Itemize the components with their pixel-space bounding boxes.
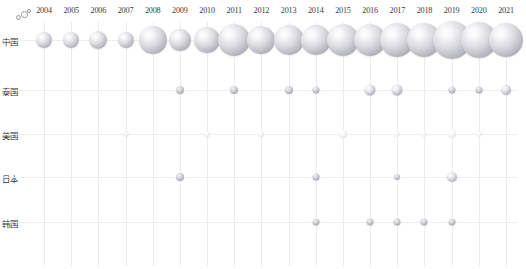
bubble-中国-2011[interactable]: [218, 24, 250, 56]
gridline-2013: [289, 22, 290, 266]
plot-area: [36, 22, 522, 266]
gridline-2004: [44, 22, 45, 266]
bubble-中国-2013[interactable]: [274, 25, 304, 55]
gridline-2021: [506, 22, 507, 266]
bubble-美国-2015[interactable]: [339, 130, 347, 138]
bubble-中国-2004[interactable]: [36, 32, 52, 48]
gridline-2008: [153, 22, 154, 266]
y-axis-label-4: 韩国: [2, 217, 34, 229]
bubble-美国-2019[interactable]: [448, 130, 456, 138]
bubble-泰国-2016[interactable]: [365, 85, 376, 96]
gridline-2007: [126, 22, 127, 266]
bubble-日本-2019[interactable]: [447, 172, 457, 182]
bubble-美国-2010[interactable]: [204, 131, 210, 137]
bubble-中国-2021[interactable]: [489, 23, 523, 57]
bubble-韩国-2014[interactable]: [312, 219, 319, 226]
bubble-泰国-2021[interactable]: [501, 85, 511, 95]
bubble-韩国-2018[interactable]: [421, 219, 428, 226]
bubble-日本-2009[interactable]: [176, 173, 184, 181]
gridline-2009: [180, 22, 181, 266]
bubble-泰国-2013[interactable]: [285, 86, 293, 94]
bubble-美国-2020[interactable]: [476, 132, 481, 137]
gridline-2011: [234, 22, 235, 266]
bubble-chart: 2004200520062007200820092010201120122013…: [0, 0, 526, 269]
gridline-2017: [397, 22, 398, 266]
bubble-中国-2008[interactable]: [139, 26, 167, 54]
gridline-2018: [424, 22, 425, 266]
gridline-2014: [316, 22, 317, 266]
bubble-美国-2017[interactable]: [395, 132, 400, 137]
bubble-美国-2007[interactable]: [123, 132, 128, 137]
bubble-中国-2009[interactable]: [169, 29, 191, 51]
x-axis-label-2021: 2021: [489, 6, 523, 15]
bubble-美国-2012[interactable]: [258, 131, 264, 137]
bubble-泰国-2009[interactable]: [176, 86, 184, 94]
y-axis-label-3: 日本: [2, 172, 34, 184]
bubble-日本-2014[interactable]: [312, 174, 319, 181]
y-axis-label-0: 中国: [2, 35, 34, 47]
bubble-中国-2010[interactable]: [194, 27, 220, 53]
row-line-3: [2, 177, 518, 178]
bubble-泰国-2014[interactable]: [312, 87, 319, 94]
bubble-中国-2007[interactable]: [118, 32, 134, 48]
bubble-韩国-2019[interactable]: [448, 219, 455, 226]
gridline-2006: [98, 22, 99, 266]
bubble-美国-2018[interactable]: [422, 132, 427, 137]
bubble-中国-2012[interactable]: [247, 26, 275, 54]
gridline-2015: [343, 22, 344, 266]
bubble-韩国-2017[interactable]: [394, 219, 401, 226]
y-axis-label-1: 泰国: [2, 85, 34, 97]
bubble-韩国-2016[interactable]: [367, 219, 374, 226]
y-axis-label-2: 美国: [2, 129, 34, 141]
gridline-2020: [479, 22, 480, 266]
bubble-泰国-2017[interactable]: [392, 85, 403, 96]
row-line-4: [2, 222, 518, 223]
gridline-2016: [370, 22, 371, 266]
bubble-中国-2006[interactable]: [89, 31, 107, 49]
bubble-日本-2017[interactable]: [394, 174, 400, 180]
bubble-泰国-2019[interactable]: [448, 87, 455, 94]
gridline-2010: [207, 22, 208, 266]
row-line-1: [2, 90, 518, 91]
bubble-中国-2005[interactable]: [63, 32, 79, 48]
bubble-泰国-2011[interactable]: [230, 86, 238, 94]
gridline-2005: [71, 22, 72, 266]
gridline-2012: [261, 22, 262, 266]
bubble-泰国-2020[interactable]: [475, 87, 482, 94]
